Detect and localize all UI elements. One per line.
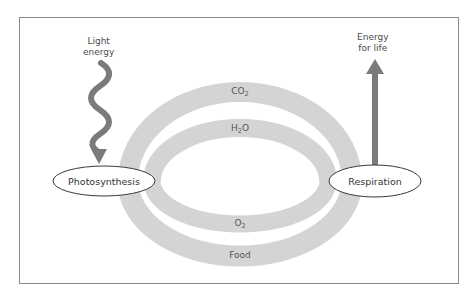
co2-label-base: CO: [231, 86, 244, 96]
up-arrow-icon: [366, 59, 384, 167]
light-energy-line2: energy: [83, 47, 114, 58]
h2o-band: [152, 128, 328, 181]
food-label-text: Food: [229, 250, 251, 260]
food-label: Food: [229, 250, 251, 260]
respiration-node: Respiration: [348, 176, 402, 187]
co2-label: CO2: [231, 86, 249, 98]
wavy-arrow-icon: [91, 63, 109, 164]
energy-for-life-line1: Energy: [357, 32, 389, 43]
h2o-label-suffix: O: [242, 123, 249, 133]
light-energy-label: Light energy: [83, 36, 114, 58]
h2o-label: H2O: [231, 123, 249, 135]
energy-for-life-line2: for life: [357, 43, 389, 54]
photosynthesis-node: Photosynthesis: [68, 176, 140, 187]
o2-label: O2: [234, 218, 245, 230]
h2o-label-base: H: [231, 123, 238, 133]
energy-for-life-label: Energy for life: [357, 32, 389, 54]
o2-label-subscript: 2: [241, 222, 245, 230]
co2-label-subscript: 2: [245, 90, 249, 98]
light-energy-line1: Light: [83, 36, 114, 47]
